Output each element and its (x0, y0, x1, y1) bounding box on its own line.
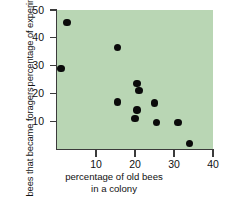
y-axis-line (56, 9, 57, 150)
data-point (135, 87, 143, 95)
y-tick-label: 10 (14, 116, 44, 126)
data-point (57, 65, 65, 73)
data-point (63, 19, 71, 27)
x-axis-title-line-2: in a colony (0, 183, 228, 195)
y-tick-label: 20 (14, 88, 44, 98)
y-axis-title: bees that became foragers percentage of … (14, 6, 44, 166)
x-tick-mark (173, 150, 174, 157)
x-tick-mark (212, 150, 213, 157)
x-tick-label: 20 (120, 159, 150, 170)
y-tick-mark (50, 93, 56, 94)
x-tick-mark (95, 150, 96, 157)
scatter-chart-figure: bees that became foragers percentage of … (0, 0, 228, 197)
y-tick-mark (50, 65, 56, 66)
y-tick-label: 50 (14, 5, 44, 15)
x-tick-mark (134, 150, 135, 157)
x-axis-title: percentage of old bees in a colony (0, 171, 228, 195)
x-tick-label: 30 (159, 159, 189, 170)
data-point (133, 106, 141, 114)
y-tick-mark (50, 121, 56, 122)
y-tick-mark (50, 37, 56, 38)
data-point (131, 115, 139, 123)
y-tick-mark (50, 9, 56, 10)
x-tick-label: 10 (81, 159, 111, 170)
x-tick-label: 40 (198, 159, 228, 170)
data-point (174, 119, 182, 127)
data-point (114, 98, 122, 106)
x-axis-title-line-1: percentage of old bees (0, 171, 228, 183)
y-tick-label: 30 (14, 60, 44, 70)
y-tick-label: 40 (14, 32, 44, 42)
